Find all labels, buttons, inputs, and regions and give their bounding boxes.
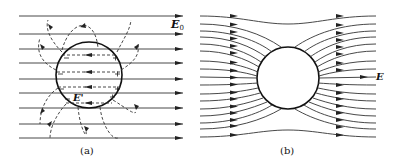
diagram-canvas bbox=[0, 0, 394, 165]
external-field-label: E0 bbox=[171, 18, 184, 32]
caption-a: (a) bbox=[80, 145, 94, 156]
internal-field-label: E' bbox=[73, 92, 84, 103]
field-label-subscript: 0 bbox=[179, 24, 183, 32]
polarization-arrows bbox=[40, 23, 139, 132]
panel-b bbox=[200, 14, 376, 137]
external-field-arrows bbox=[175, 14, 183, 140]
sphere-b bbox=[257, 47, 319, 109]
panel-a bbox=[19, 14, 183, 140]
resulting-field-label: E bbox=[376, 71, 384, 82]
caption-b: (b) bbox=[280, 145, 294, 156]
external-field-lines bbox=[19, 16, 183, 138]
